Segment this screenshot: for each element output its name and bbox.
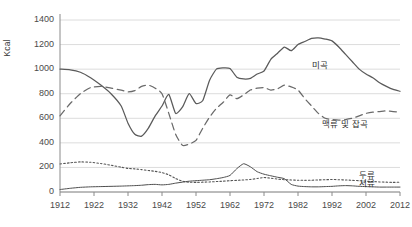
x-tick-label: 1962 — [213, 200, 247, 210]
y-axis-title: Kcal — [2, 18, 12, 78]
y-tick-label: 600 — [20, 112, 54, 122]
x-tick-label: 1932 — [111, 200, 145, 210]
series-label-barley-misc: 맥류 및 잡곡 — [322, 117, 369, 129]
x-tick-label: 2012 — [383, 200, 412, 210]
series-line-2 — [60, 162, 400, 183]
chart-container: Kcal 0200400600800100012001400 191219221… — [0, 0, 412, 227]
y-tick-label: 800 — [20, 88, 54, 98]
series-label-rice: 미곡 — [312, 58, 329, 70]
x-tick-label: 1992 — [315, 200, 349, 210]
line-chart-svg — [0, 0, 412, 227]
series-label-tubers: 서류 — [359, 176, 376, 188]
y-tick-label: 1000 — [20, 63, 54, 73]
x-tick-marks — [60, 192, 400, 196]
y-tick-label: 200 — [20, 161, 54, 171]
x-tick-label: 1972 — [247, 200, 281, 210]
x-tick-label: 1982 — [281, 200, 315, 210]
y-tick-label: 1200 — [20, 39, 54, 49]
y-tick-label: 0 — [20, 186, 54, 196]
x-tick-label: 1952 — [179, 200, 213, 210]
gridlines — [60, 20, 400, 192]
data-series — [60, 38, 400, 190]
y-tick-label: 400 — [20, 137, 54, 147]
x-tick-label: 1922 — [77, 200, 111, 210]
y-tick-label: 1400 — [20, 14, 54, 24]
x-tick-label: 1942 — [145, 200, 179, 210]
x-tick-label: 2002 — [349, 200, 383, 210]
x-tick-label: 1912 — [43, 200, 77, 210]
